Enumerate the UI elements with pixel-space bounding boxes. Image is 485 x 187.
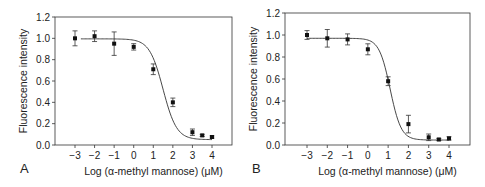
y-tick-label: 1.0 [36, 33, 50, 44]
x-tick-label: 1 [151, 150, 157, 161]
data-point [112, 42, 116, 46]
x-tick-label: 2 [170, 150, 176, 161]
figure: 0.00.20.40.60.81.01.2−3−2−101234Log (α-m… [0, 0, 485, 187]
y-tick-label: 0.2 [36, 118, 50, 129]
x-tick-label: 0 [365, 150, 371, 161]
y-tick-label: 0.6 [36, 76, 50, 87]
x-tick-label: −3 [301, 150, 313, 161]
y-tick-label: 0.0 [266, 140, 280, 151]
x-tick-label: 3 [190, 150, 196, 161]
panel-label: A [20, 161, 29, 176]
x-tick-label: 1 [385, 150, 391, 161]
y-tick-label: 0.0 [36, 140, 50, 151]
data-point [325, 36, 329, 40]
x-tick-label: −3 [69, 150, 81, 161]
x-tick-label: 2 [406, 150, 412, 161]
y-tick-label: 0.8 [266, 52, 280, 63]
y-tick-label: 0.4 [266, 96, 280, 107]
data-point [437, 138, 441, 142]
fit-curve [81, 39, 212, 140]
y-tick-label: 0.4 [36, 97, 50, 108]
chart-panel-b: 0.00.20.40.60.81.01.2−3−2−101234Log (α-m… [247, 8, 470, 178]
data-point [73, 36, 77, 40]
data-point [210, 135, 214, 139]
data-point [406, 122, 410, 126]
y-axis-label: Fluorescence intensity [247, 26, 259, 131]
data-point [93, 34, 97, 38]
panel-label: B [252, 161, 261, 176]
plot-frame [55, 17, 232, 145]
y-tick-label: 0.6 [266, 74, 280, 85]
data-point [200, 133, 204, 137]
data-point [151, 67, 155, 71]
y-tick-label: 1.2 [266, 8, 280, 19]
x-tick-label: −2 [322, 150, 334, 161]
data-point [132, 45, 136, 49]
data-point [190, 130, 194, 134]
y-axis-label: Fluorescence intensity [17, 28, 29, 133]
y-tick-label: 1.0 [266, 30, 280, 41]
fit-curve [307, 38, 449, 140]
x-axis-label: Log (α-methyl mannose) (μM) [84, 165, 223, 177]
data-point [366, 47, 370, 51]
x-tick-label: 4 [209, 150, 215, 161]
x-tick-label: 3 [426, 150, 432, 161]
data-point [447, 136, 451, 140]
chart-panel-a: 0.00.20.40.60.81.01.2−3−2−101234Log (α-m… [17, 12, 232, 178]
data-point [305, 33, 309, 37]
data-point [346, 37, 350, 41]
x-tick-label: 0 [131, 150, 137, 161]
data-point [386, 79, 390, 83]
data-point [171, 100, 175, 104]
x-tick-label: −1 [342, 150, 354, 161]
x-tick-label: −2 [89, 150, 101, 161]
y-tick-label: 0.2 [266, 118, 280, 129]
y-tick-label: 0.8 [36, 54, 50, 65]
data-point [427, 135, 431, 139]
plot-frame [285, 13, 470, 145]
x-tick-label: 4 [446, 150, 452, 161]
x-tick-label: −1 [108, 150, 120, 161]
x-axis-label: Log (α-methyl mannose) (μM) [318, 165, 457, 177]
y-tick-label: 1.2 [36, 12, 50, 23]
